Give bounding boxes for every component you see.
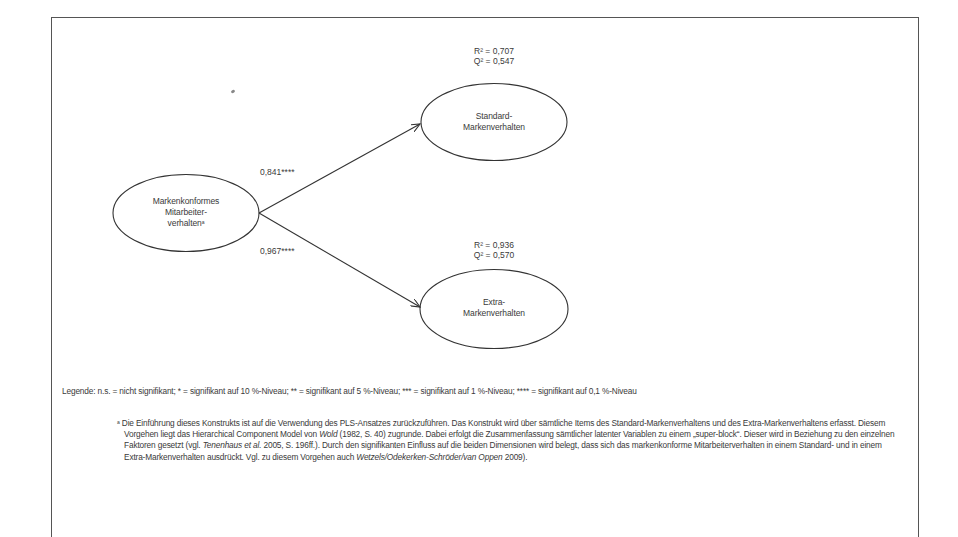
path-arrow-extra xyxy=(259,213,420,307)
extra-q2: Q² = 0,570 xyxy=(454,250,534,260)
node-extra-label: Extra- Markenverhalten xyxy=(434,297,554,319)
standard-q2: Q² = 0,547 xyxy=(454,56,534,66)
footnote-marker: a xyxy=(202,219,205,225)
footnote: a Die Einführung dieses Konstrukts ist a… xyxy=(117,418,897,463)
extra-r2: R² = 0,936 xyxy=(454,240,534,250)
node-source-label: Markenkonformes Mitarbeiter- verhaltena xyxy=(126,196,246,229)
footnote-marker: a xyxy=(117,419,120,425)
standard-stats: R² = 0,707 Q² = 0,547 xyxy=(454,46,534,66)
citation-wold: Wold xyxy=(319,429,337,439)
extra-stats: R² = 0,936 Q² = 0,570 xyxy=(454,240,534,260)
node-standard-label: Standard- Markenverhalten xyxy=(434,111,554,133)
standard-r2: R² = 0,707 xyxy=(454,46,534,56)
significance-legend: Legende: n.s. = nicht signifikant; * = s… xyxy=(62,386,637,396)
citation-tenenhaus: Tenenhaus et al. xyxy=(203,440,262,450)
coefficient-standard: 0,841**** xyxy=(260,167,295,177)
coefficient-extra: 0,967**** xyxy=(260,246,295,256)
citation-wetzels: Wetzels/Odekerken-Schröder/van Oppen xyxy=(356,452,502,462)
